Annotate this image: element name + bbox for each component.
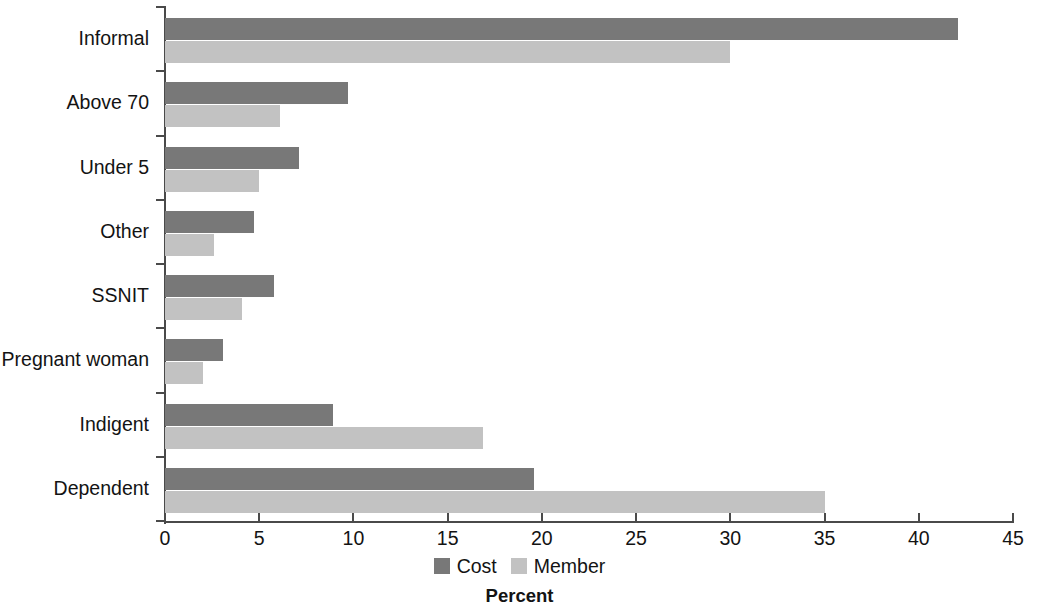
bar-group: [165, 82, 1013, 127]
category-label-dependent: Dependent: [54, 478, 149, 498]
bar-cost-above-70: [165, 82, 348, 104]
legend-item-member[interactable]: Member: [511, 556, 606, 576]
bar-group: [165, 211, 1013, 256]
bar-member-dependent: [165, 491, 825, 513]
bar-group: [165, 468, 1013, 513]
bar-cost-under-5: [165, 147, 299, 169]
bar-group: [165, 147, 1013, 192]
bar-member-other: [165, 234, 214, 256]
x-axis-tick-label: 0: [160, 527, 171, 549]
legend-label: Cost: [457, 556, 497, 576]
category-axis-labels: InformalAbove 70Under 5OtherSSNITPregnan…: [0, 8, 157, 522]
legend-swatch-icon: [434, 558, 450, 574]
bar-cost-other: [165, 211, 254, 233]
chart-legend: CostMember: [0, 556, 1039, 576]
y-axis-tick: [156, 199, 165, 201]
x-axis-tick-label: 25: [625, 527, 647, 549]
bar-group: [165, 339, 1013, 384]
category-label-informal: Informal: [79, 28, 149, 48]
bar-member-indigent: [165, 427, 483, 449]
bar-member-above-70: [165, 105, 280, 127]
bar-member-ssnit: [165, 298, 242, 320]
y-axis-tick: [156, 70, 165, 72]
x-axis-tick-label: 5: [254, 527, 265, 549]
y-axis-tick: [156, 327, 165, 329]
x-axis-tick-label: 20: [531, 527, 553, 549]
bar-cost-ssnit: [165, 275, 274, 297]
legend-swatch-icon: [511, 558, 527, 574]
bar-group: [165, 18, 1013, 63]
bar-cost-dependent: [165, 468, 534, 490]
bar-cost-informal: [165, 18, 958, 40]
y-axis-tick: [156, 392, 165, 394]
category-label-ssnit: SSNIT: [92, 285, 149, 305]
bar-member-informal: [165, 41, 730, 63]
bar-member-pregnant-woman: [165, 362, 203, 384]
y-axis-tick: [156, 6, 165, 8]
x-axis-tick-label: 15: [437, 527, 459, 549]
bar-cost-pregnant-woman: [165, 339, 223, 361]
category-label-pregnant-woman: Pregnant woman: [2, 349, 149, 369]
bar-group: [165, 404, 1013, 449]
plot-area: [165, 8, 1013, 522]
y-axis-tick: [156, 135, 165, 137]
category-label-other: Other: [100, 221, 149, 241]
x-axis-title: Percent: [0, 585, 1039, 607]
x-axis-tick-label: 40: [908, 527, 930, 549]
legend-label: Member: [534, 556, 606, 576]
x-axis-tick-label: 35: [814, 527, 836, 549]
bar-member-under-5: [165, 170, 259, 192]
legend-item-cost[interactable]: Cost: [434, 556, 497, 576]
y-axis-tick: [156, 456, 165, 458]
bar-group: [165, 275, 1013, 320]
category-label-above-70: Above 70: [67, 92, 149, 112]
category-label-under-5: Under 5: [80, 157, 149, 177]
x-axis-tick-label: 10: [343, 527, 365, 549]
bar-chart: InformalAbove 70Under 5OtherSSNITPregnan…: [0, 0, 1039, 611]
y-axis-tick: [156, 263, 165, 265]
x-axis-tick-label: 30: [719, 527, 741, 549]
category-label-indigent: Indigent: [80, 414, 149, 434]
x-axis-tick-label: 45: [1002, 527, 1024, 549]
bar-cost-indigent: [165, 404, 333, 426]
